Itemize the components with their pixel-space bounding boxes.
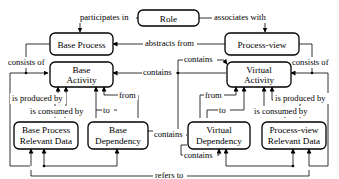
label-contains-bd: contains bbox=[154, 129, 183, 139]
svg-text:Relevant Data: Relevant Data bbox=[268, 136, 320, 146]
node-virtual-activity: Virtual Activity bbox=[227, 62, 291, 87]
node-base-activity: Base Activity bbox=[50, 62, 113, 87]
svg-text:Base: Base bbox=[109, 125, 127, 135]
label-is-produced-by-right: is produced by bbox=[275, 93, 326, 103]
label-participates-in: participates in bbox=[80, 12, 129, 22]
ontology-diagram: participates in associates with abstract… bbox=[0, 0, 339, 179]
label-is-consumed-by-right: is consumed by bbox=[254, 106, 308, 116]
node-role: Role bbox=[138, 10, 199, 26]
label-abstracts-from: abstracts from bbox=[145, 38, 194, 48]
label-to-right: to bbox=[219, 105, 226, 115]
label-associates-with: associates with bbox=[214, 12, 266, 22]
svg-text:Base Process: Base Process bbox=[22, 125, 71, 135]
svg-text:Virtual: Virtual bbox=[246, 65, 272, 75]
label-contains-ba: contains bbox=[143, 67, 172, 77]
label-is-produced-by-left: is produced by bbox=[12, 93, 63, 103]
svg-text:Activity: Activity bbox=[66, 75, 97, 85]
label-consists-of-left: consists of bbox=[8, 57, 45, 67]
svg-text:Virtual: Virtual bbox=[206, 125, 232, 135]
svg-text:Base: Base bbox=[73, 65, 91, 75]
svg-text:Process-view: Process-view bbox=[270, 125, 319, 135]
node-process-view: Process-view bbox=[225, 33, 299, 55]
node-base-process: Base Process bbox=[50, 33, 113, 55]
edge-data-links bbox=[31, 149, 309, 167]
svg-text:Dependency: Dependency bbox=[196, 136, 242, 146]
node-base-process-relevant-data: Base Process Relevant Data bbox=[14, 122, 78, 149]
label-to-left: to bbox=[103, 105, 110, 115]
node-virtual-dependency: Virtual Dependency bbox=[188, 122, 250, 149]
node-base-dependency: Base Dependency bbox=[88, 122, 148, 149]
svg-text:Base Process: Base Process bbox=[57, 40, 106, 50]
svg-text:Dependency: Dependency bbox=[95, 136, 141, 146]
label-consists-of-right: consists of bbox=[292, 57, 329, 67]
svg-text:Relevant Data: Relevant Data bbox=[20, 136, 72, 146]
label-is-consumed-by-left: is consumed by bbox=[30, 106, 84, 116]
label-contains-va: contains bbox=[184, 54, 213, 64]
svg-text:Process-view: Process-view bbox=[238, 40, 287, 50]
label-refers-to: refers to bbox=[155, 170, 183, 179]
svg-text:Activity: Activity bbox=[244, 75, 275, 85]
label-from-right: from bbox=[205, 90, 222, 100]
label-from-left: from bbox=[119, 90, 136, 100]
node-process-view-relevant-data: Process-view Relevant Data bbox=[262, 122, 326, 149]
label-contains-vd: contains bbox=[184, 150, 213, 160]
svg-text:Role: Role bbox=[160, 14, 177, 24]
